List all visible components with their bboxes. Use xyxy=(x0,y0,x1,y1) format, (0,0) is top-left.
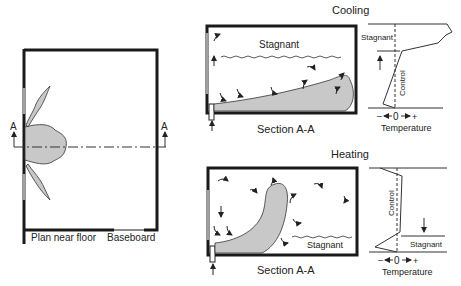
cooling-title: Cooling xyxy=(332,4,369,16)
cooling-airflow xyxy=(214,75,353,111)
arrow-icon xyxy=(290,194,296,203)
arrow-icon xyxy=(214,226,220,235)
arrow-icon xyxy=(218,179,228,181)
diagram-canvas: A A Plan near floor Baseboard Cooling St… xyxy=(0,0,461,286)
plan-airflow-upper xyxy=(26,86,50,127)
arrow-icon xyxy=(293,219,301,223)
heating-title: Heating xyxy=(331,148,369,160)
cooling-temperature-graph: Stagnant Control – 0 + Temperature xyxy=(361,24,452,133)
axis-zero: 0 xyxy=(394,255,400,266)
cooling-graph-control: Control xyxy=(398,70,407,96)
cooling-stagnant-line xyxy=(221,56,341,58)
cooling-temp-profile xyxy=(383,24,452,108)
heating-stagnant-label: Stagnant xyxy=(307,240,344,250)
cooling-stagnant-label: Stagnant xyxy=(259,39,299,50)
arrow-icon xyxy=(250,189,257,193)
section-marker-left: A xyxy=(10,121,17,132)
arrow-icon xyxy=(227,226,232,235)
cooling-baseboard-unit xyxy=(209,104,214,120)
plan-view: A A Plan near floor Baseboard xyxy=(10,49,168,244)
axis-minus: – xyxy=(377,111,382,121)
baseboard-label: Baseboard xyxy=(107,232,155,243)
heating-section-caption: Section A-A xyxy=(257,264,315,276)
axis-plus: + xyxy=(412,112,417,122)
arrow-icon xyxy=(344,196,346,203)
arrow-icon xyxy=(214,34,220,41)
arrow-icon xyxy=(314,184,322,189)
cooling-section-caption: Section A-A xyxy=(257,123,315,135)
heating-axis-label: Temperature xyxy=(382,267,433,277)
plan-airflow-center xyxy=(25,125,66,164)
axis-plus: + xyxy=(413,256,418,266)
arrow-icon xyxy=(271,178,273,185)
plan-caption: Plan near floor xyxy=(31,232,97,243)
arrow-icon xyxy=(281,238,288,243)
cooling-section: Cooling Stagnant Section A-A Stagnant xyxy=(207,4,452,135)
axis-minus: – xyxy=(378,255,383,265)
heating-airflow xyxy=(215,183,288,253)
arrow-icon xyxy=(220,93,226,101)
arrow-icon xyxy=(271,87,277,94)
heating-temperature-graph: Stagnant Control – 0 + Temperature xyxy=(369,168,447,277)
section-marker-right: A xyxy=(161,121,168,132)
heating-stagnant-line xyxy=(292,236,352,238)
arrow-icon xyxy=(237,89,243,97)
plan-airflow-lower xyxy=(26,164,50,200)
cooling-axis-label: Temperature xyxy=(381,123,432,133)
heating-graph-stagnant: Stagnant xyxy=(410,240,443,249)
axis-zero: 0 xyxy=(393,111,399,122)
heating-baseboard-unit xyxy=(210,246,215,262)
heating-section: Heating Stagnant Section A-A Stagnant xyxy=(208,148,447,277)
cooling-graph-stagnant: Stagnant xyxy=(361,33,394,42)
heating-graph-control: Control xyxy=(387,190,396,216)
arrow-icon xyxy=(307,66,315,70)
